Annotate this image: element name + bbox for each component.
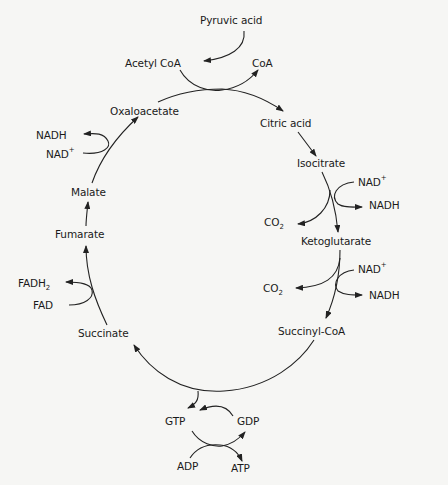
krebs-cycle-diagram: Pyruvic acid Acetyl CoA CoA Oxaloacetate…: [0, 0, 448, 485]
succinate-label: Succinate: [78, 328, 129, 339]
cycle-arrows: [0, 0, 448, 485]
citric-acid-label: Citric acid: [260, 118, 311, 129]
co2-label-2: CO2: [263, 283, 283, 297]
isocitrate-label: Isocitrate: [297, 158, 345, 169]
atp-label: ATP: [231, 463, 250, 474]
co2-label-1: CO2: [264, 217, 284, 231]
ketoglutarate-label: Ketoglutarate: [301, 236, 371, 247]
nad-plus-label-1: NAD+: [358, 176, 387, 187]
pyruvic-acid-label: Pyruvic acid: [200, 15, 262, 26]
gdp-label: GDP: [237, 416, 259, 427]
adp-label: ADP: [177, 461, 198, 472]
nadh-label-3: NADH: [36, 130, 67, 141]
fumarate-label: Fumarate: [55, 229, 104, 240]
acetyl-coa-label: Acetyl CoA: [125, 58, 181, 69]
fad-label: FAD: [33, 300, 53, 311]
nad-plus-label-3: NAD+: [46, 148, 75, 159]
fadh2-label: FADH2: [18, 278, 50, 292]
succinyl-coa-label: Succinyl-CoA: [278, 326, 345, 337]
malate-label: Malate: [71, 187, 106, 198]
nadh-label-2: NADH: [369, 290, 400, 301]
gtp-label: GTP: [165, 416, 185, 427]
coa-label: CoA: [252, 58, 273, 69]
oxaloacetate-label: Oxaloacetate: [110, 106, 179, 117]
nadh-label-1: NADH: [369, 200, 400, 211]
nad-plus-label-2: NAD+: [358, 263, 387, 274]
